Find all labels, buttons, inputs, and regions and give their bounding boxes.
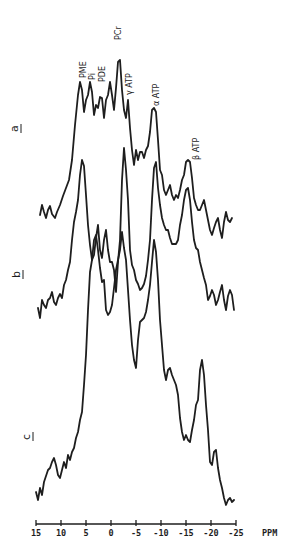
ppm-axis: 15 10 5 0 -5 -10 -15 -20 -25 PPM (31, 520, 277, 538)
tick-label: 5 (83, 528, 88, 538)
tick-label: -15 (178, 528, 193, 538)
nmr-spectra-figure: a b c PME Pi PDE PCr γ ATP α ATP β ATP 1… (0, 0, 295, 549)
tick-label: -10 (153, 528, 168, 538)
tick-label: 10 (56, 528, 66, 538)
trace-label-a: a (8, 124, 21, 133)
peak-label-pde: PDE (98, 66, 107, 82)
peak-label-pi: Pi (88, 73, 97, 80)
svg-text:c: c (20, 434, 33, 440)
spectrum-trace-a (40, 60, 232, 238)
tick-label: -20 (203, 528, 218, 538)
axis-unit-label: PPM (262, 528, 277, 538)
tick-label: -25 (228, 528, 243, 538)
peak-label-gamma-atp: γ ATP (125, 73, 134, 95)
spectrum-trace-b (38, 148, 234, 318)
tick-label: -5 (131, 528, 141, 538)
tick-label: 15 (31, 528, 41, 538)
trace-label-b: b (10, 270, 23, 279)
peak-label-alpha-atp: α ATP (152, 83, 161, 106)
peak-label-pcr: PCr (114, 26, 123, 40)
tick-label: 0 (108, 528, 113, 538)
trace-label-c: c (20, 432, 33, 441)
peak-label-pme: PME (79, 61, 88, 78)
peak-label-beta-atp: β ATP (192, 138, 201, 160)
svg-text:b: b (10, 271, 23, 278)
svg-text:a: a (8, 125, 21, 132)
